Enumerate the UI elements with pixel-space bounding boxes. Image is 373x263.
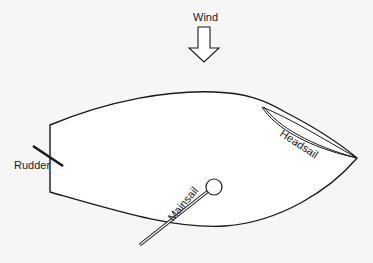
wind-arrow-icon: [189, 27, 219, 62]
wind-label: Wind: [193, 12, 218, 23]
sailboat-diagram: [0, 0, 373, 263]
rudder-label: Rudder: [14, 160, 50, 171]
mast-icon: [206, 179, 222, 195]
